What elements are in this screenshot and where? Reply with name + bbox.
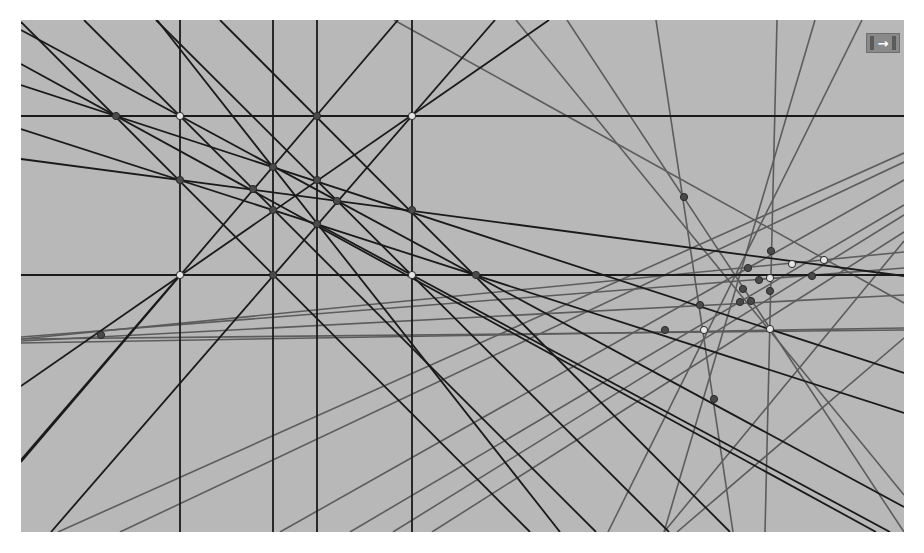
intersection-point[interactable] [739, 285, 746, 292]
free-point[interactable] [408, 112, 415, 119]
intersection-point[interactable] [710, 395, 717, 402]
free-point[interactable] [788, 260, 795, 267]
gray-line [393, 215, 904, 532]
intersection-point[interactable] [744, 264, 751, 271]
intersection-point[interactable] [755, 276, 762, 283]
intersection-point[interactable] [269, 271, 276, 278]
intersection-point[interactable] [661, 326, 668, 333]
gray-line [280, 180, 904, 532]
intersection-point[interactable] [313, 176, 320, 183]
button-right-label [892, 36, 896, 50]
free-point[interactable] [176, 271, 183, 278]
free-point[interactable] [408, 271, 415, 278]
free-point[interactable] [766, 274, 773, 281]
free-point[interactable] [820, 256, 827, 263]
black-line [84, 20, 596, 532]
intersection-point[interactable] [97, 331, 104, 338]
intersection-point[interactable] [747, 297, 754, 304]
intersection-point[interactable] [680, 193, 687, 200]
export-graphics-button[interactable]: → [866, 33, 900, 53]
black-line [157, 20, 560, 532]
intersection-point[interactable] [269, 163, 276, 170]
black-line [21, 275, 180, 460]
free-point[interactable] [766, 325, 773, 332]
button-left-label [870, 36, 874, 50]
intersection-point[interactable] [767, 247, 774, 254]
free-point[interactable] [700, 326, 707, 333]
black-line [21, 159, 904, 276]
arrow-right-icon: → [878, 37, 889, 50]
intersection-point[interactable] [736, 298, 743, 305]
intersection-point[interactable] [176, 176, 183, 183]
intersection-point[interactable] [333, 197, 340, 204]
gray-line [432, 232, 904, 532]
intersection-point[interactable] [269, 206, 276, 213]
intersection-point[interactable] [766, 287, 773, 294]
free-point[interactable] [176, 112, 183, 119]
intersection-point[interactable] [249, 185, 256, 192]
line-arrangement-drawing[interactable] [21, 20, 904, 532]
intersection-point[interactable] [696, 301, 703, 308]
intersection-point[interactable] [808, 272, 815, 279]
geometry-canvas[interactable] [21, 20, 904, 532]
intersection-point[interactable] [313, 220, 320, 227]
intersection-point[interactable] [472, 271, 479, 278]
intersection-point[interactable] [408, 206, 415, 213]
intersection-point[interactable] [112, 112, 119, 119]
intersection-point[interactable] [313, 112, 320, 119]
gray-line [58, 153, 904, 532]
